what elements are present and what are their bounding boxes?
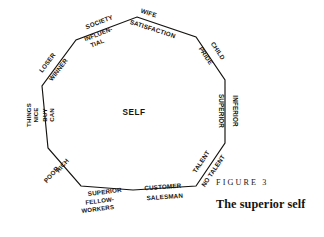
edge-label-superior-inner: SUPERIOR xyxy=(218,94,225,128)
figure-caption: FIGURE 3 The superior self xyxy=(216,178,320,212)
edge-label-nice-things-outer-line2: THINGS xyxy=(25,103,32,127)
figure-number: FIGURE 3 xyxy=(216,178,320,187)
center-label-self: SELF xyxy=(123,108,146,117)
edge-label-can-buy-inner-line2: BUY xyxy=(41,108,48,121)
edge-label-can-buy-inner-line1: CAN xyxy=(48,108,55,122)
edge-label-wife-outer: WIFE xyxy=(140,7,158,19)
figure-title: The superior self xyxy=(216,197,320,212)
figure-page: WIFE SATISFACTION CHILD PRIDE INFERIOR S… xyxy=(0,0,324,237)
edge-label-inferior-outer: INFERIOR xyxy=(232,95,239,127)
edge-label-nice-things-outer-line1: NICE xyxy=(32,107,39,122)
edge-label-salesman-outer: SALESMAN xyxy=(146,192,183,202)
edge-label-customer-inner: CUSTOMER xyxy=(144,182,182,192)
